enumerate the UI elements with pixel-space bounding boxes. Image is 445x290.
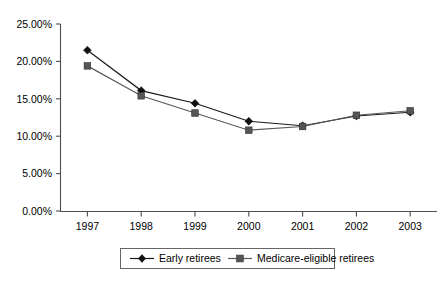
y-tick-label-5: 5.00%	[22, 167, 52, 179]
y-tick-label-15: 15.00%	[16, 93, 52, 105]
y-tick-label-20: 20.00%	[16, 55, 52, 67]
y-tick-label-25: 25.00%	[16, 18, 52, 30]
diamond-marker-icon	[191, 99, 199, 107]
square-marker-icon	[407, 107, 414, 114]
square-marker-icon	[84, 63, 91, 70]
x-tick-label-1997: 1997	[76, 220, 100, 232]
y-tick-label-10: 10.00%	[16, 130, 52, 142]
data-series-layer	[84, 46, 415, 133]
x-axis	[61, 212, 438, 217]
x-tick-labels: 1997 1998 1999 2000 2001 2002 2003	[76, 220, 422, 232]
series-early-retirees	[84, 46, 415, 129]
x-tick-label-1998: 1998	[130, 220, 154, 232]
x-tick-label-2002: 2002	[345, 220, 369, 232]
y-axis	[56, 24, 61, 212]
legend-label-medicare-eligible-retirees: Medicare-eligible retirees	[257, 252, 374, 264]
y-tick-label-0: 0.00%	[22, 205, 52, 217]
chart-canvas: 25.00% 20.00% 15.00% 10.00% 5.00% 0.00% …	[0, 0, 445, 290]
line-chart-figure: 25.00% 20.00% 15.00% 10.00% 5.00% 0.00% …	[0, 0, 445, 290]
y-tick-labels: 25.00% 20.00% 15.00% 10.00% 5.00% 0.00%	[16, 18, 52, 217]
square-marker-icon	[246, 127, 253, 134]
legend-label-early-retirees: Early retirees	[159, 252, 221, 264]
diamond-marker-icon	[245, 117, 253, 125]
square-marker-icon	[138, 93, 145, 100]
chart-legend: Early retirees Medicare-eligible retiree…	[121, 249, 375, 269]
square-marker-icon	[299, 123, 306, 130]
square-marker-icon	[237, 255, 244, 262]
x-tick-label-2003: 2003	[399, 220, 423, 232]
x-tick-label-1999: 1999	[183, 220, 207, 232]
square-marker-icon	[192, 110, 199, 117]
square-marker-icon	[353, 112, 360, 119]
x-tick-label-2000: 2000	[237, 220, 261, 232]
x-tick-label-2001: 2001	[291, 220, 315, 232]
